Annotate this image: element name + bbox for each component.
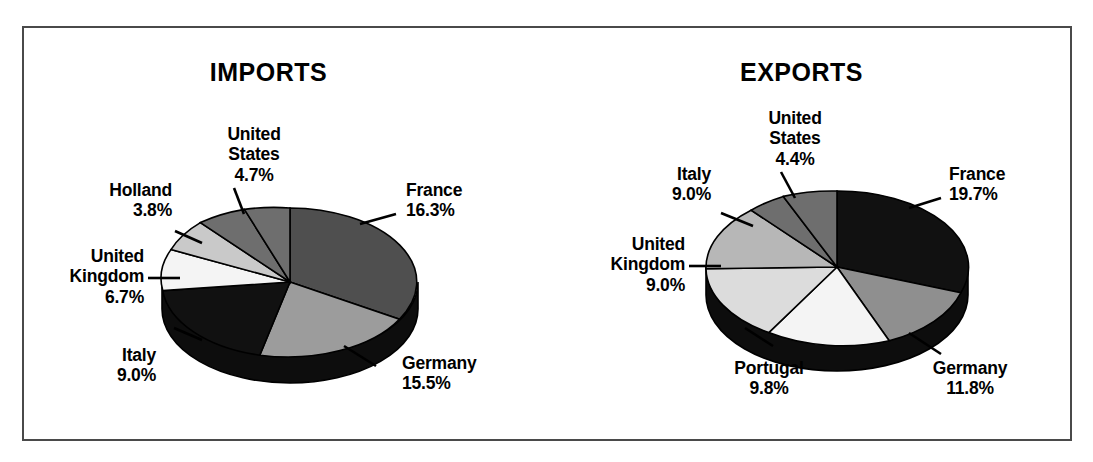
imports-panel: IMPORTS	[24, 28, 549, 439]
exports-pie-3d	[689, 172, 969, 371]
imports-pie-3d	[148, 188, 418, 383]
figure-border: IMPORTS	[22, 26, 1072, 441]
label-imports-france: France 16.3%	[406, 180, 536, 221]
label-imports-united-states: United States 4.7%	[194, 124, 314, 185]
label-exports-united-states: United States 4.4%	[735, 108, 855, 169]
leader-france	[360, 214, 396, 224]
leader-united-states	[781, 172, 795, 198]
exports-panel: EXPORTS	[549, 28, 1074, 439]
label-imports-italy: Italy 9.0%	[44, 345, 156, 386]
pie-chart-figure: IMPORTS	[0, 0, 1093, 462]
label-exports-united-kingdom: United Kingdom 9.0%	[551, 234, 685, 295]
label-exports-portugal: Portugal 9.8%	[699, 358, 839, 399]
label-exports-france: France 19.7%	[949, 164, 1079, 205]
label-imports-germany: Germany 15.5%	[402, 353, 542, 394]
label-exports-germany: Germany 11.8%	[895, 358, 1045, 399]
leader-france	[909, 198, 941, 208]
label-exports-italy: Italy 9.0%	[593, 164, 711, 205]
label-imports-united-kingdom: United Kingdom 6.7%	[14, 246, 144, 307]
label-imports-holland: Holland 3.8%	[54, 180, 172, 221]
